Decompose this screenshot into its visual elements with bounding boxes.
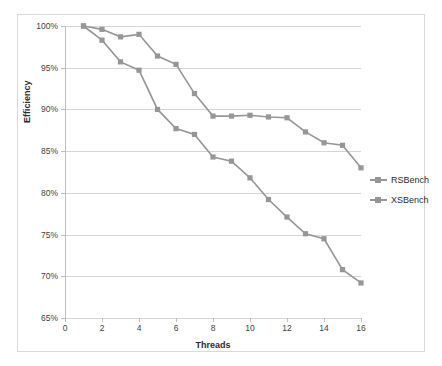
- data-point-marker: [173, 126, 178, 131]
- data-point-marker: [321, 236, 326, 241]
- data-point-marker: [136, 32, 141, 37]
- y-tick-label: 85%: [41, 146, 58, 156]
- data-point-marker: [284, 115, 289, 120]
- data-point-marker: [155, 107, 160, 112]
- data-point-marker: [266, 197, 271, 202]
- y-tick-label: 95%: [41, 63, 58, 73]
- data-point-marker: [136, 68, 141, 73]
- data-point-marker: [99, 38, 104, 43]
- x-tick-label: 0: [63, 323, 68, 333]
- chart-figure: Efficiency Threads 65%70%75%80%85%90%95%…: [17, 14, 425, 352]
- x-tick-label: 2: [100, 323, 105, 333]
- data-point-marker: [118, 34, 123, 39]
- legend-item-rsbench[interactable]: RSBench: [370, 171, 426, 188]
- series-rsbench: [81, 23, 364, 170]
- data-point-marker: [340, 267, 345, 272]
- x-tick-label: 6: [174, 323, 179, 333]
- y-tick-label: 90%: [41, 104, 58, 114]
- data-point-marker: [340, 143, 345, 148]
- data-point-marker: [155, 53, 160, 58]
- x-tick-label: 16: [356, 323, 365, 333]
- y-tick-label: 75%: [41, 230, 58, 240]
- data-point-marker: [358, 280, 363, 285]
- data-point-marker: [229, 159, 234, 164]
- series-line: [84, 26, 362, 283]
- y-tick-label: 65%: [41, 313, 58, 323]
- y-axis-title: Efficiency: [22, 80, 32, 123]
- x-tick-label: 14: [319, 323, 328, 333]
- data-point-marker: [303, 231, 308, 236]
- series-xsbench: [81, 23, 364, 285]
- y-tick-label: 70%: [41, 271, 58, 281]
- data-point-marker: [229, 114, 234, 119]
- data-point-marker: [247, 113, 252, 118]
- x-tick-mark: [102, 318, 103, 322]
- x-tick-mark: [176, 318, 177, 322]
- x-tick-label: 8: [211, 323, 216, 333]
- data-point-marker: [266, 114, 271, 119]
- x-tick-mark: [361, 318, 362, 322]
- data-point-marker: [173, 62, 178, 67]
- legend-marker-icon: [370, 175, 387, 185]
- data-point-marker: [99, 27, 104, 32]
- x-tick-mark: [324, 318, 325, 322]
- y-tick-label: 80%: [41, 188, 58, 198]
- legend-marker-icon: [370, 195, 387, 205]
- chart-legend: RSBenchXSBench: [370, 171, 426, 211]
- y-tick-label: 100%: [36, 21, 58, 31]
- data-point-marker: [210, 154, 215, 159]
- data-point-marker: [303, 129, 308, 134]
- x-tick-label: 12: [282, 323, 291, 333]
- legend-item-xsbench[interactable]: XSBench: [370, 191, 426, 208]
- x-tick-mark: [213, 318, 214, 322]
- x-tick-mark: [65, 318, 66, 322]
- x-tick-label: 4: [137, 323, 142, 333]
- x-tick-mark: [250, 318, 251, 322]
- x-axis-title: Threads: [65, 340, 361, 350]
- data-point-marker: [284, 214, 289, 219]
- series-line: [84, 26, 362, 168]
- data-point-marker: [192, 91, 197, 96]
- legend-label: RSBench: [391, 175, 429, 185]
- data-point-marker: [192, 132, 197, 137]
- data-point-marker: [358, 165, 363, 170]
- data-point-marker: [210, 114, 215, 119]
- plot-area: 65%70%75%80%85%90%95%100% 0246810121416: [65, 26, 361, 318]
- x-tick-label: 10: [245, 323, 254, 333]
- data-point-marker: [118, 59, 123, 64]
- data-point-marker: [247, 175, 252, 180]
- legend-label: XSBench: [391, 195, 429, 205]
- chart-series-svg: [65, 26, 361, 318]
- data-point-marker: [81, 23, 86, 28]
- x-tick-mark: [139, 318, 140, 322]
- data-point-marker: [321, 140, 326, 145]
- x-tick-mark: [287, 318, 288, 322]
